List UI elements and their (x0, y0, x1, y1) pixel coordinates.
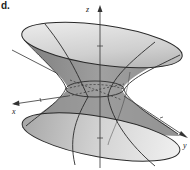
z-axis-arrow (98, 5, 103, 12)
y-tick (160, 117, 163, 118)
panel-label: d. (1, 0, 10, 11)
z-axis-label: z (85, 5, 90, 14)
x-axis-arrow (12, 101, 20, 107)
x-axis-label: x (11, 107, 16, 116)
x-tick (40, 98, 41, 102)
y-axis-label: y (182, 141, 187, 150)
hyperboloid-diagram: d. z x y (0, 0, 190, 170)
y-axis-arrow (179, 131, 188, 138)
